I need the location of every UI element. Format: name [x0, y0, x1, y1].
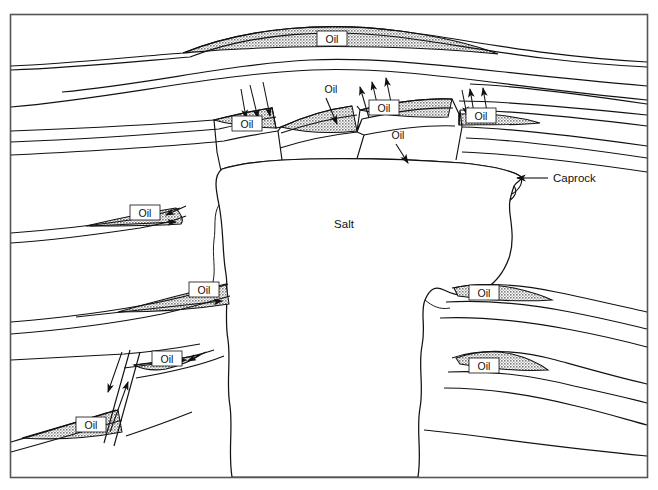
oil-label-left-flank-upper: Oil	[130, 205, 160, 220]
oil-label-text: Oil	[139, 207, 152, 219]
oil-label-sub-caprock: Oil	[392, 129, 405, 141]
oil-label-text: Oil	[378, 102, 391, 114]
oil-label-crest-anticline: Oil	[317, 31, 347, 46]
oil-label-right-flank-upper: Oil	[469, 285, 499, 300]
oil-label-text: Oil	[475, 110, 488, 122]
oil-label-center-fault-crest: Oil	[325, 83, 338, 95]
salt-label: Salt	[334, 218, 355, 230]
oil-label-center-right-block: Oil	[369, 100, 399, 115]
oil-label-left-fault-block: Oil	[232, 116, 262, 131]
oil-label-text: Oil	[478, 360, 491, 372]
caprock-label: Caprock	[553, 172, 596, 184]
oil-label-text: Oil	[241, 118, 254, 130]
oil-label-left-flank-middle: Oil	[189, 282, 219, 297]
figure-canvas: Salt Caprock Oil Oil Oil Oil Oil Oil	[0, 0, 658, 490]
oil-label-right-flank-lower: Oil	[469, 358, 499, 373]
oil-label-lower-left-footwall: Oil	[76, 417, 106, 432]
salt-dome-cross-section: Salt Caprock Oil Oil Oil Oil Oil Oil	[0, 0, 658, 490]
oil-label-text: Oil	[478, 287, 491, 299]
oil-label-text: Oil	[85, 419, 98, 431]
oil-label-text: Oil	[326, 33, 339, 45]
oil-label-text: Oil	[161, 353, 174, 365]
oil-label-lower-left-hanging: Oil	[152, 351, 182, 366]
oil-label-right-fault-block: Oil	[466, 108, 496, 123]
oil-label-text: Oil	[198, 284, 211, 296]
